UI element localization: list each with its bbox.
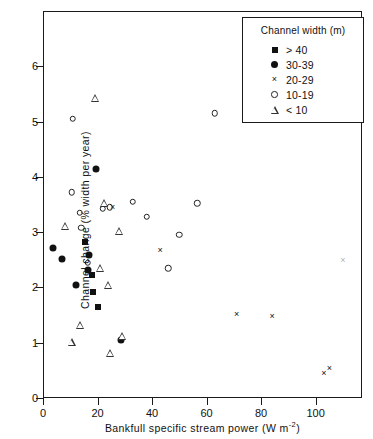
data-point: × [233,310,240,317]
legend-key [267,61,282,68]
marker-circle-open [212,110,219,117]
marker-circle-filled [49,244,56,251]
marker-cross: × [339,256,346,263]
data-point [96,264,104,272]
marker-triangle [61,222,69,230]
data-point [91,94,99,102]
data-point [176,232,183,239]
marker-square [95,304,101,310]
marker-circle-open [271,91,278,98]
x-tick [98,398,99,405]
x-axis-title: Bankfull specific stream power (W m-2) [43,420,362,434]
data-point [61,222,69,230]
marker-circle-filled [117,336,124,343]
data-point [118,332,126,340]
marker-circle-open [143,213,150,220]
legend-key: × [267,76,282,83]
data-point [76,321,84,329]
legend-item-cross: ×20-29 [267,72,363,87]
marker-triangle [104,281,112,289]
data-point [117,336,124,343]
marker-circle-open [70,116,77,123]
marker-square [272,47,278,53]
data-point [49,244,56,251]
legend-label: < 10 [286,104,308,116]
marker-circle-open [176,232,183,239]
marker-cross: × [320,370,327,377]
data-point: × [109,204,116,211]
legend-key [267,47,282,53]
data-point [194,200,201,207]
data-point [100,206,107,213]
marker-triangle [100,199,108,207]
y-tick-label: 5 [32,116,38,128]
x-tick-label: 0 [40,407,46,419]
data-point: × [320,370,327,377]
data-point [104,281,112,289]
data-point [100,199,108,207]
data-point [107,204,114,211]
x-tick-label: 60 [200,407,212,419]
data-point [70,116,77,123]
marker-triangle [96,264,104,272]
marker-circle-open [165,265,172,272]
y-tick-label: 6 [32,60,38,72]
data-point [90,289,96,295]
legend: Channel width (m) > 4030-39×20-2910-19< … [242,17,364,123]
x-tick-label: 20 [91,407,103,419]
marker-triangle [76,321,84,329]
data-point: × [326,364,333,371]
marker-circle-filled [271,61,278,68]
marker-circle-open [130,198,137,205]
y-tick-label: 1 [32,337,38,349]
data-point [59,255,66,262]
x-tick-label: 40 [146,407,158,419]
marker-circle-filled [59,255,66,262]
legend-item-circle-filled: 30-39 [267,57,363,72]
marker-circle-filled [93,165,100,172]
marker-cross: × [269,313,276,320]
marker-triangle [68,338,76,346]
x-tick-label: 80 [255,407,267,419]
x-tick [261,398,262,405]
marker-circle-open [107,204,114,211]
data-point: × [269,313,276,320]
data-point [165,265,172,272]
data-point [93,165,100,172]
data-point [68,189,75,196]
x-tick [152,398,153,405]
scatter-chart: 0123456 020406080100 ××××××× Channel cha… [0,0,373,439]
marker-triangle [271,106,279,114]
marker-triangle [115,227,123,235]
legend-title: Channel width (m) [243,25,363,36]
data-point [115,227,123,235]
x-tick-label: 100 [306,407,324,419]
legend-item-triangle: < 10 [267,102,363,117]
data-point [106,349,114,357]
legend-label: > 40 [286,44,308,56]
y-axis-title: Channel change (% width per year) [79,131,91,309]
y-tick-label: 4 [32,171,38,183]
marker-triangle [91,94,99,102]
y-tick-label: 2 [32,281,38,293]
legend-label: 10-19 [286,89,314,101]
legend-items: > 4030-39×20-2910-19< 10 [243,42,363,117]
marker-cross: × [271,76,278,83]
legend-key [267,106,282,114]
legend-item-square: > 40 [267,42,363,57]
marker-triangle [106,349,114,357]
y-tick-label: 3 [32,226,38,238]
x-tick [207,398,208,405]
marker-cross: × [109,204,116,211]
marker-cross: × [157,246,164,253]
legend-label: 20-29 [286,74,314,86]
marker-circle-open [68,189,75,196]
y-tick-label: 0 [32,392,38,404]
data-point [68,338,76,346]
y-axis-title-wrap: Channel change (% width per year) [0,0,20,439]
marker-cross: × [233,310,240,317]
marker-circle-open [194,200,201,207]
data-point [95,304,101,310]
legend-key [267,91,282,98]
data-point: × [157,246,164,253]
